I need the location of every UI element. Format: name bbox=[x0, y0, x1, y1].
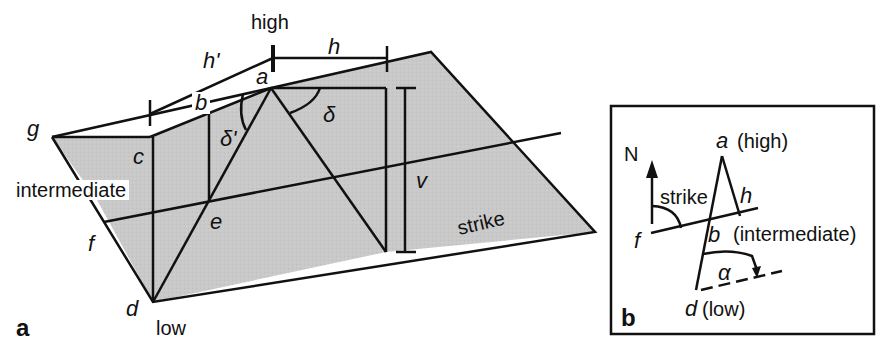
label-vertex-f: f bbox=[88, 233, 94, 255]
label-north: N bbox=[624, 144, 638, 164]
label-h-prime: h' bbox=[203, 50, 219, 72]
label-vertex-d: d bbox=[126, 298, 138, 320]
label-b-intermediate: (intermediate) bbox=[733, 224, 856, 244]
label-vertex-b: b bbox=[192, 92, 210, 114]
label-b-alpha: α bbox=[718, 262, 731, 284]
label-b-low: (low) bbox=[702, 299, 745, 319]
label-vertex-c: c bbox=[133, 146, 144, 168]
three-point-problem-figure: high h' h a b g c δ' δ intermediate e f … bbox=[0, 0, 885, 352]
label-vertex-e: e bbox=[210, 211, 222, 233]
panel-label-b: b bbox=[621, 306, 636, 330]
label-vertex-g: g bbox=[27, 118, 39, 140]
label-delta-prime: δ' bbox=[220, 128, 236, 150]
label-h: h bbox=[328, 36, 340, 58]
label-b-vertex-a: a bbox=[716, 130, 728, 152]
inclined-plane bbox=[52, 52, 595, 302]
label-b-strike: strike bbox=[660, 187, 708, 207]
label-high: high bbox=[251, 12, 289, 32]
label-b-vertex-b: b bbox=[708, 224, 720, 246]
label-b-f: f bbox=[634, 230, 640, 252]
label-b-vertex-d: d bbox=[685, 298, 697, 320]
label-delta: δ bbox=[323, 104, 335, 126]
label-vertex-a: a bbox=[256, 66, 268, 88]
panel-label-a: a bbox=[16, 316, 29, 340]
label-b-high: (high) bbox=[737, 131, 788, 151]
label-intermediate: intermediate bbox=[13, 180, 129, 200]
label-v: v bbox=[416, 170, 427, 192]
label-b-h: h bbox=[740, 185, 752, 207]
label-low: low bbox=[156, 318, 186, 338]
